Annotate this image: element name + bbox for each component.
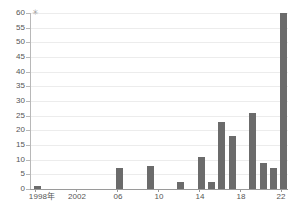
y-tick-label: 5 — [1, 170, 25, 178]
x-tick-label: 1998年 — [29, 192, 55, 201]
y-tick-label: 25 — [1, 112, 25, 120]
bar-2009[interactable] — [147, 166, 154, 189]
bar-2016[interactable] — [218, 122, 225, 189]
x-tick-label: 10 — [154, 192, 163, 201]
x-tick-label: 06 — [113, 192, 122, 201]
bar-2006[interactable] — [116, 168, 123, 189]
bar-2019[interactable] — [249, 113, 256, 189]
x-tick-label: 22 — [276, 192, 285, 201]
y-tick-mark — [26, 101, 30, 102]
y-tick-label: 60 — [1, 9, 25, 17]
y-tick-mark — [26, 130, 30, 131]
bar-2017[interactable] — [229, 136, 236, 189]
bar-2022[interactable] — [280, 13, 287, 189]
bar-2012[interactable] — [177, 182, 184, 189]
y-tick-mark — [26, 116, 30, 117]
y-tick-label: 15 — [1, 141, 25, 149]
y-tick-label: 50 — [1, 38, 25, 46]
y-tick-mark — [26, 28, 30, 29]
y-tick-mark — [26, 160, 30, 161]
y-tick-label: 35 — [1, 82, 25, 90]
x-tick-label: 2002 — [68, 192, 86, 201]
y-tick-mark — [26, 189, 30, 190]
y-tick-label: 55 — [1, 24, 25, 32]
y-tick-mark — [26, 86, 30, 87]
x-axis-line — [30, 189, 288, 190]
y-tick-mark — [26, 174, 30, 175]
y-tick-mark — [26, 57, 30, 58]
y-tick-label: 30 — [1, 97, 25, 105]
y-tick-mark — [26, 145, 30, 146]
y-tick-label: 10 — [1, 156, 25, 164]
asterisk-icon: ✳ — [31, 9, 39, 17]
bar-2021[interactable] — [270, 168, 277, 189]
y-tick-label: 20 — [1, 126, 25, 134]
y-tick-mark — [26, 72, 30, 73]
bar-chart: 60 55 50 45 40 35 30 25 20 15 10 5 0 — [0, 0, 290, 206]
y-axis-labels: 60 55 50 45 40 35 30 25 20 15 10 5 0 — [0, 0, 25, 206]
y-tick-mark — [26, 13, 30, 14]
y-tick-label: 0 — [1, 185, 25, 193]
x-tick-label: 14 — [195, 192, 204, 201]
x-tick-label: 18 — [236, 192, 245, 201]
y-tick-label: 45 — [1, 53, 25, 61]
y-tick-label: 40 — [1, 68, 25, 76]
bars-layer — [31, 13, 288, 189]
y-tick-mark — [26, 42, 30, 43]
bar-2020[interactable] — [260, 163, 267, 189]
bar-2015[interactable] — [208, 182, 215, 189]
bar-2014[interactable] — [198, 157, 205, 189]
